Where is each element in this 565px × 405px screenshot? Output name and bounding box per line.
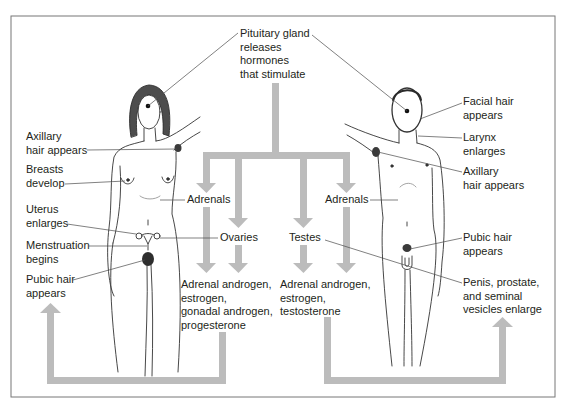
puberty-hormone-diagram: Pituitary gland releases hormones that s…	[0, 0, 565, 405]
hormone-flow-arrows	[40, 83, 513, 384]
label-uterus-enlarges: Uterus enlarges	[26, 203, 68, 230]
label-line: Axillary	[26, 130, 87, 144]
arrow-to-male-adrenals	[336, 158, 356, 193]
label-line: hair appears	[463, 179, 524, 193]
label-male-axillary-hair: Axillary hair appears	[463, 165, 524, 192]
label-line: Uterus	[26, 203, 68, 217]
label-line: gonadal androgen,	[181, 305, 273, 319]
label-line: Adrenal androgen,	[280, 278, 371, 292]
label-line: Menstruation	[26, 239, 90, 253]
label-male-pubic-hair: Pubic hair appears	[463, 231, 512, 258]
label-line: Adrenals	[187, 193, 230, 207]
male-genitals-icon	[402, 256, 412, 270]
label-line: Larynx	[463, 131, 505, 145]
label-line: appears	[463, 109, 514, 123]
label-larynx-enlarges: Larynx enlarges	[463, 131, 505, 158]
label-line: progesterone	[181, 319, 273, 333]
leader-larynx	[418, 136, 462, 138]
label-line: Pubic hair	[26, 273, 75, 287]
label-line: Breasts	[26, 163, 65, 177]
uterus-icon	[136, 233, 160, 250]
arrow-female-adrenals-to-hormones	[196, 207, 216, 273]
label-penis-prostate: Penis, prostate, and seminal vesicles en…	[463, 276, 542, 317]
label-line: Testes	[289, 231, 321, 245]
male-figure	[345, 88, 444, 366]
label-line: appears	[26, 287, 75, 301]
label-line: Axillary	[463, 165, 524, 179]
label-female-axillary-hair: Axillary hair appears	[26, 130, 87, 157]
label-line: Adrenals	[325, 193, 368, 207]
leader-pituitary-male	[312, 35, 407, 111]
pituitary-trunk-arrow	[272, 83, 279, 155]
label-female-pubic-hair: Pubic hair appears	[26, 273, 75, 300]
label-ovaries: Ovaries	[220, 231, 258, 245]
label-line: testosterone	[280, 305, 371, 319]
arrow-male-adrenals-to-hormones	[336, 207, 356, 273]
label-line: develop	[26, 177, 65, 191]
label-line: enlarges	[26, 217, 68, 231]
female-head	[138, 95, 160, 129]
label-line: estrogen,	[280, 292, 371, 306]
pituitary-line-3: hormones	[240, 54, 310, 68]
arrow-testes-to-hormones	[293, 245, 313, 273]
female-axillary-hair	[175, 144, 182, 152]
label-line: and seminal	[463, 290, 542, 304]
branch-bar	[203, 152, 350, 159]
label-line: estrogen,	[181, 292, 273, 306]
leader-female-axillary	[87, 149, 177, 150]
male-feedback-arrow	[324, 317, 513, 384]
pituitary-line-4: that stimulate	[240, 68, 310, 82]
label-line: enlarges	[463, 145, 505, 159]
label-line: hair appears	[26, 144, 87, 158]
label-line: Adrenal androgen,	[181, 278, 273, 292]
label-line: Penis, prostate,	[463, 276, 542, 290]
pituitary-line-1: Pituitary gland	[240, 27, 310, 41]
arrow-to-testes	[293, 158, 313, 228]
arrow-to-ovaries	[228, 158, 248, 228]
label-male-hormones: Adrenal androgen, estrogen, testosterone	[280, 278, 371, 319]
label-line: Facial hair	[463, 95, 514, 109]
label-line: Pubic hair	[463, 231, 512, 245]
arrow-to-female-adrenals	[196, 158, 216, 193]
label-menstruation-begins: Menstruation begins	[26, 239, 90, 266]
leader-facial-hair	[420, 103, 462, 119]
leader-breasts	[65, 181, 125, 184]
female-pubic-hair	[142, 252, 154, 266]
label-line: appears	[463, 245, 512, 259]
leader-male-axillary	[378, 152, 462, 172]
label-female-hormones: Adrenal androgen, estrogen, gonadal andr…	[181, 278, 273, 332]
male-pubic-hair	[403, 244, 412, 252]
leader-uterus	[67, 224, 136, 234]
pituitary-line-2: releases	[240, 41, 310, 55]
label-line: vesicles enlarge	[463, 303, 542, 317]
label-breasts-develop: Breasts develop	[26, 163, 65, 190]
label-female-adrenals: Adrenals	[187, 193, 230, 207]
label-testes: Testes	[289, 231, 321, 245]
pituitary-label: Pituitary gland releases hormones that s…	[240, 27, 310, 81]
label-male-adrenals: Adrenals	[325, 193, 368, 207]
label-facial-hair: Facial hair appears	[463, 95, 514, 122]
label-line: Ovaries	[220, 231, 258, 245]
leader-pituitary-female	[148, 33, 238, 106]
arrow-ovaries-to-hormones	[228, 245, 248, 273]
label-line: begins	[26, 253, 90, 267]
